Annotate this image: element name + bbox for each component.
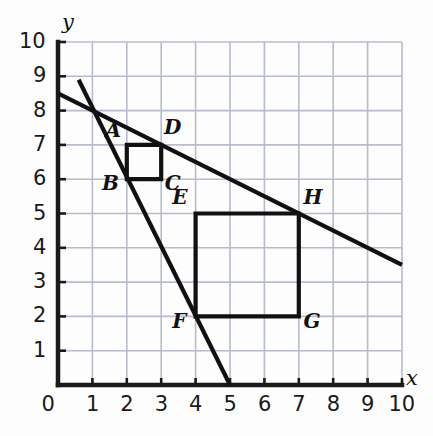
vertex-label-e: E	[172, 187, 187, 207]
x-tick-label: 4	[189, 394, 202, 415]
y-tick-label: 8	[33, 100, 46, 121]
square-EFGH	[196, 214, 299, 317]
y-axis-label: y	[62, 12, 74, 33]
y-tick-label: 5	[33, 203, 46, 224]
x-tick-label: 9	[361, 394, 374, 415]
vertex-label-g: G	[304, 311, 321, 331]
x-tick-label: 5	[224, 394, 237, 415]
x-tick-label: 2	[120, 394, 133, 415]
x-tick-label: 6	[258, 394, 271, 415]
steep-line	[79, 80, 230, 385]
y-tick-label: 7	[33, 134, 46, 155]
y-tick-label: 3	[33, 271, 46, 292]
y-tick-label: 9	[33, 65, 46, 86]
x-tick-label: 1	[86, 394, 99, 415]
x-tick-label: 8	[327, 394, 340, 415]
x-axis-label: x	[406, 368, 418, 389]
x-tick-label: 3	[155, 394, 168, 415]
coordinate-grid-figure: 012345678910 12345678910 ABCDEFGH x y	[0, 0, 433, 436]
vertex-label-d: D	[164, 117, 181, 137]
x-tick-label: 7	[292, 394, 305, 415]
y-tick-label: 10	[19, 31, 46, 52]
y-tick-label: 6	[33, 168, 46, 189]
vertex-label-b: B	[102, 173, 119, 193]
y-tick-label: 4	[33, 237, 46, 258]
plot-canvas	[0, 0, 433, 436]
x-tick-label: 0	[42, 394, 55, 415]
x-tick-label: 10	[389, 394, 416, 415]
vertex-label-h: H	[304, 187, 323, 207]
vertex-label-a: A	[105, 120, 121, 140]
y-tick-label: 2	[33, 305, 46, 326]
y-tick-label: 1	[33, 340, 46, 361]
square-ABCD	[127, 145, 161, 179]
vertex-label-f: F	[172, 311, 186, 331]
